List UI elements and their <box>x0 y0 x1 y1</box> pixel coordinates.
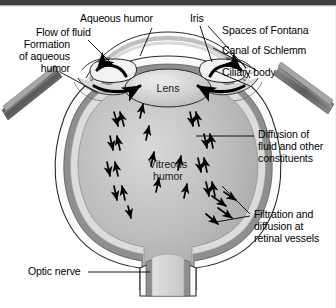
label-aqueous-humor: Aqueous humor <box>80 12 153 24</box>
label-iris: Iris <box>190 12 204 24</box>
label-optic-nerve: Optic nerve <box>28 265 81 277</box>
eye-diagram-page: Formation of aqueous humor Flow of fluid… <box>0 0 336 308</box>
optic-nerve-core <box>152 254 184 296</box>
label-vitreous-humor: Vitreous humor <box>134 158 202 182</box>
label-lens: Lens <box>144 82 192 94</box>
label-canal-of-schlemm: Canal of Schlemm <box>222 44 306 56</box>
label-ciliary-body: Ciliary body <box>222 66 276 78</box>
label-diffusion-of-fluid: Diffusion of fluid and other constituent… <box>258 128 323 165</box>
label-filtration-and-diffusion: Filtration and diffusion at retinal vess… <box>254 208 319 245</box>
label-spaces-of-fontana: Spaces of Fontana <box>222 24 308 36</box>
label-formation-of-aqueous-humor: Formation of aqueous humor <box>0 38 70 75</box>
label-flow-of-fluid: Flow of fluid <box>36 26 91 38</box>
